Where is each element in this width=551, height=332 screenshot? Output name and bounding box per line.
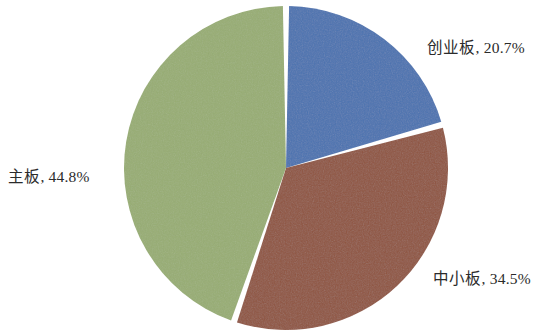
pie-label-zhuban: 主板, 44.8% <box>8 169 90 185</box>
pie-chart-figure: 创业板, 20.7% 主板, 44.8% 中小板, 34.5% <box>0 0 551 332</box>
pie-slice-group <box>124 6 448 330</box>
pie-label-zhongxiaoban: 中小板, 34.5% <box>433 271 531 287</box>
pie-label-chuangyeban: 创业板, 20.7% <box>427 40 525 56</box>
